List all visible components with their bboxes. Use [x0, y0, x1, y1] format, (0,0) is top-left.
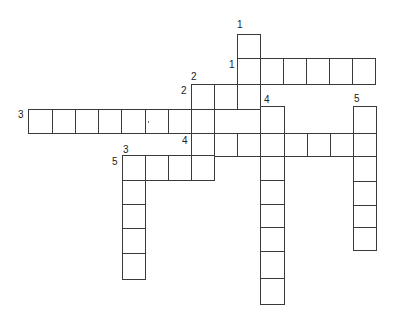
crossword-cell[interactable]	[260, 106, 285, 134]
crossword-cell[interactable]	[307, 133, 331, 157]
clue-number-1-across: 1	[229, 60, 235, 70]
crossword-cell[interactable]	[237, 58, 261, 85]
crossword-grid: 1122345435	[0, 0, 396, 325]
crossword-cell[interactable]	[122, 180, 146, 205]
clue-number-4-down: 4	[264, 95, 270, 105]
crossword-cell[interactable]	[330, 133, 354, 157]
crossword-cell[interactable]	[121, 109, 146, 134]
clue-number-1-down: 1	[237, 20, 243, 30]
crossword-cell[interactable]	[168, 109, 192, 134]
crossword-cell[interactable]	[352, 58, 376, 85]
crossword-cell[interactable]	[122, 155, 146, 181]
clue-number-4-across: 4	[182, 136, 188, 146]
crossword-cell[interactable]	[237, 34, 261, 59]
crossword-cell[interactable]	[260, 156, 285, 181]
speck	[148, 121, 149, 123]
crossword-cell[interactable]	[353, 205, 377, 228]
crossword-cell[interactable]	[329, 58, 353, 85]
crossword-cell[interactable]	[237, 133, 261, 157]
clue-number-5-down: 5	[354, 94, 360, 104]
crossword-cell[interactable]	[353, 106, 377, 134]
crossword-cell[interactable]	[353, 227, 377, 251]
crossword-cell[interactable]	[191, 155, 215, 181]
crossword-cell[interactable]	[28, 109, 53, 134]
crossword-cell[interactable]	[260, 251, 285, 279]
crossword-cell[interactable]	[353, 133, 377, 157]
crossword-cell[interactable]	[98, 109, 122, 134]
crossword-cell[interactable]	[284, 133, 308, 157]
crossword-cell[interactable]	[214, 109, 261, 134]
crossword-cell[interactable]	[353, 156, 377, 182]
crossword-cell[interactable]	[260, 204, 285, 228]
crossword-cell[interactable]	[191, 133, 215, 157]
crossword-cell[interactable]	[214, 84, 238, 110]
crossword-cell[interactable]	[145, 155, 169, 181]
crossword-cell[interactable]	[214, 133, 238, 157]
crossword-cell[interactable]	[191, 109, 215, 134]
crossword-cell[interactable]	[306, 58, 330, 85]
crossword-cell[interactable]	[52, 109, 76, 134]
crossword-cell[interactable]	[122, 204, 146, 229]
clue-number-2-down: 2	[191, 72, 197, 82]
crossword-cell[interactable]	[260, 58, 284, 85]
crossword-cell[interactable]	[122, 228, 146, 254]
crossword-cell[interactable]	[283, 58, 307, 85]
crossword-cell[interactable]	[260, 133, 285, 157]
clue-number-3-across: 3	[18, 110, 24, 120]
clue-number-3-down: 3	[123, 145, 129, 155]
crossword-cell[interactable]	[75, 109, 99, 134]
crossword-cell[interactable]	[122, 253, 146, 280]
crossword-cell[interactable]	[237, 84, 261, 110]
crossword-cell[interactable]	[353, 181, 377, 206]
clue-number-2-across: 2	[181, 86, 187, 96]
crossword-cell[interactable]	[191, 84, 215, 110]
crossword-cell[interactable]	[260, 180, 285, 205]
crossword-cell[interactable]	[260, 227, 285, 252]
clue-number-5-across: 5	[112, 157, 118, 167]
crossword-cell[interactable]	[168, 155, 192, 181]
crossword-cell[interactable]	[260, 278, 285, 305]
